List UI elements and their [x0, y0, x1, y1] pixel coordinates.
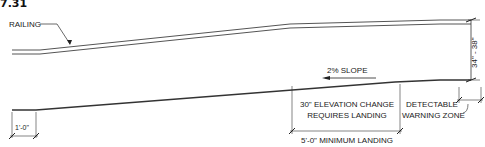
slope-arrow	[322, 76, 376, 80]
elevation-note-line2: REQUIRES LANDING	[296, 110, 398, 121]
elevation-note: 30" ELEVATION CHANGE REQUIRES LANDING	[296, 99, 398, 121]
ramp-diagram: 7.31 RAILING 2% SLOPE 34" - 38" 30" ELEV…	[0, 0, 485, 147]
landing-label: 5'-0" MINIMUM LANDING	[296, 135, 398, 146]
warning-zone-line1: DETECTABLE	[402, 99, 462, 110]
warning-zone-line2: WARNING ZONE	[402, 110, 462, 121]
elevation-note-line1: 30" ELEVATION CHANGE	[296, 99, 398, 110]
slope-label: 2% SLOPE	[327, 66, 367, 75]
railing-leader	[40, 24, 72, 45]
ramp-drawing	[0, 0, 485, 147]
warning-zone-note: DETECTABLE WARNING ZONE	[402, 99, 462, 121]
railing	[12, 20, 471, 54]
railing-label: RAILING	[9, 20, 41, 29]
height-label: 34" - 38"	[470, 37, 479, 68]
figure-number: 7.31	[0, 0, 27, 10]
edge-dimension-label: 1'-0"	[15, 124, 29, 131]
